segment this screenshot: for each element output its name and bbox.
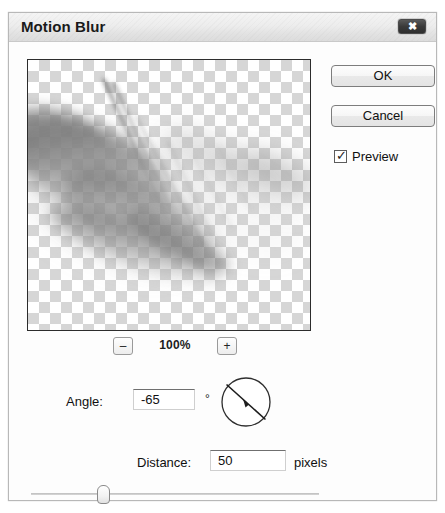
zoom-in-button[interactable]: + bbox=[217, 337, 237, 355]
zoom-out-button[interactable]: – bbox=[113, 337, 133, 355]
preview-checkbox-row[interactable]: ✓ Preview bbox=[334, 147, 398, 165]
slider-thumb[interactable] bbox=[97, 485, 110, 504]
cancel-button[interactable]: Cancel bbox=[331, 105, 435, 127]
preview-checkbox-label: Preview bbox=[352, 149, 398, 164]
degree-symbol: ° bbox=[205, 392, 210, 406]
zoom-controls: – 100% + bbox=[27, 336, 311, 358]
angle-dial[interactable] bbox=[220, 376, 272, 428]
ok-button[interactable]: OK bbox=[331, 65, 435, 87]
checkmark-icon: ✓ bbox=[336, 148, 347, 163]
motion-blur-artwork bbox=[27, 59, 311, 331]
angle-input[interactable]: -65 bbox=[133, 389, 195, 410]
close-button[interactable]: ✖ bbox=[397, 18, 427, 35]
distance-unit-label: pixels bbox=[294, 455, 327, 470]
slider-track[interactable] bbox=[31, 493, 319, 495]
preview-checkbox[interactable]: ✓ bbox=[334, 150, 347, 163]
distance-label: Distance: bbox=[137, 455, 191, 470]
preview-canvas[interactable] bbox=[27, 59, 311, 331]
screen: Motion Blur ✖ bbox=[0, 0, 445, 513]
angle-label: Angle: bbox=[66, 394, 103, 409]
distance-slider[interactable] bbox=[31, 483, 319, 505]
distance-input[interactable]: 50 bbox=[210, 450, 286, 471]
motion-blur-dialog: Motion Blur ✖ bbox=[8, 12, 437, 501]
dialog-titlebar[interactable]: Motion Blur ✖ bbox=[9, 13, 436, 42]
zoom-level-label: 100% bbox=[139, 338, 211, 352]
close-icon: ✖ bbox=[398, 19, 426, 34]
dialog-title: Motion Blur bbox=[21, 18, 105, 35]
